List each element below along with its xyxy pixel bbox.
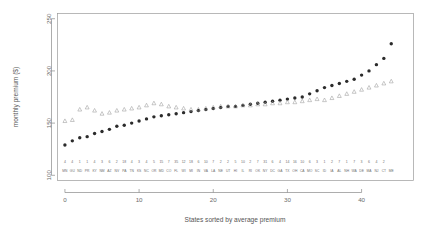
category-count-label: 2: [116, 160, 118, 164]
category-count-label: 18: [122, 160, 126, 164]
category-state-label: ID: [323, 169, 327, 173]
data-point-circle: [71, 139, 74, 142]
data-point-triangle: [70, 118, 74, 122]
plot-panel-border: [58, 14, 414, 181]
data-point-circle: [137, 119, 140, 122]
category-count-label: 7: [257, 160, 259, 164]
category-count-label: 7: [353, 160, 355, 164]
data-point-triangle: [285, 100, 289, 104]
category-count-label: 7: [338, 160, 340, 164]
category-count-label: 1: [324, 160, 326, 164]
data-series-filled-circle: [63, 42, 393, 147]
data-point-triangle: [337, 94, 341, 98]
data-point-triangle: [78, 107, 82, 111]
category-state-label: NE: [218, 169, 223, 173]
category-count-label: 4: [64, 160, 66, 164]
x-axis: 010203040: [63, 189, 365, 203]
category-state-label: NY: [263, 169, 268, 173]
category-count-label: 4: [71, 160, 73, 164]
category-state-label: VA: [204, 169, 209, 173]
data-point-triangle: [107, 111, 111, 115]
data-point-circle: [315, 89, 318, 92]
data-point-triangle: [182, 106, 186, 110]
data-point-triangle: [345, 92, 349, 96]
category-state-label: IL: [242, 169, 245, 173]
category-count-label: 7: [168, 160, 170, 164]
category-count-label: 14: [285, 160, 289, 164]
category-state-label: TX: [285, 169, 290, 173]
category-axis-labels: 4MN4GU1ND1PR4KY3NM6AZ2NV18PA4TN3KS4NC5OR…: [62, 160, 394, 173]
category-state-label: AL: [337, 169, 341, 173]
category-state-label: IN: [197, 169, 201, 173]
data-point-circle: [78, 136, 81, 139]
category-count-label: 2: [331, 160, 333, 164]
category-state-label: ME: [389, 169, 395, 173]
data-point-circle: [352, 78, 355, 81]
x-tick-label: 10: [136, 196, 143, 203]
y-tick-label: 150: [45, 117, 52, 128]
category-count-label: 2: [249, 160, 251, 164]
category-state-label: MI: [189, 169, 193, 173]
scatter-plot-canvas: 100150200250 010203040 monthly premium (…: [0, 0, 434, 241]
data-point-triangle: [100, 112, 104, 116]
category-state-label: KS: [137, 169, 142, 173]
data-point-circle: [160, 114, 163, 117]
category-state-label: AZ: [107, 169, 111, 173]
category-state-label: CA: [300, 169, 305, 173]
data-series-open-triangle: [63, 79, 393, 122]
category-state-label: NH: [344, 169, 349, 173]
x-tick-label: 0: [63, 196, 67, 203]
category-state-label: DE: [359, 169, 364, 173]
data-series-layer: [63, 42, 393, 147]
category-count-label: 6: [272, 160, 274, 164]
category-count-label: 15: [159, 160, 163, 164]
category-state-label: OK: [255, 169, 261, 173]
data-point-triangle: [159, 102, 163, 106]
y-tick-label: 250: [45, 13, 52, 24]
category-count-label: 3: [361, 160, 363, 164]
category-state-label: RI: [249, 169, 252, 173]
category-state-label: CT: [382, 169, 386, 173]
data-point-triangle: [323, 98, 327, 102]
data-point-circle: [123, 123, 126, 126]
data-point-circle: [189, 110, 192, 113]
x-tick-label: 40: [358, 196, 365, 203]
category-count-label: 6: [368, 160, 370, 164]
data-point-circle: [330, 84, 333, 87]
data-point-triangle: [330, 96, 334, 100]
category-state-label: NV: [115, 169, 120, 173]
category-count-label: 5: [153, 160, 155, 164]
data-point-triangle: [174, 105, 178, 109]
data-point-triangle: [130, 106, 134, 110]
y-axis-title: monthly premium ($): [12, 67, 20, 127]
category-count-label: 6: [108, 160, 110, 164]
category-state-label: PR: [85, 169, 90, 173]
data-point-circle: [115, 125, 118, 128]
category-state-label: IA: [330, 169, 334, 173]
category-count-label: 16: [293, 160, 297, 164]
data-point-triangle: [367, 86, 371, 90]
category-count-label: 18: [189, 160, 193, 164]
category-state-label: WA: [352, 169, 358, 173]
y-axis: 100150200250: [45, 13, 55, 180]
data-point-triangle: [137, 105, 141, 109]
data-point-circle: [63, 143, 66, 146]
data-point-circle: [308, 92, 311, 95]
data-point-triangle: [63, 119, 67, 123]
category-state-label: GA: [278, 169, 284, 173]
data-point-circle: [367, 69, 370, 72]
data-point-circle: [382, 57, 385, 60]
category-count-label: 1: [79, 160, 81, 164]
data-point-triangle: [389, 79, 393, 83]
y-tick-label: 200: [45, 65, 52, 76]
data-point-circle: [323, 86, 326, 89]
data-point-triangle: [382, 81, 386, 85]
data-point-circle: [152, 115, 155, 118]
data-point-circle: [108, 128, 111, 131]
category-count-label: 3: [316, 160, 318, 164]
category-state-label: ND: [77, 169, 82, 173]
data-point-triangle: [115, 108, 119, 112]
data-point-triangle: [85, 105, 89, 109]
x-tick-label: 30: [284, 196, 291, 203]
data-point-circle: [100, 130, 103, 133]
